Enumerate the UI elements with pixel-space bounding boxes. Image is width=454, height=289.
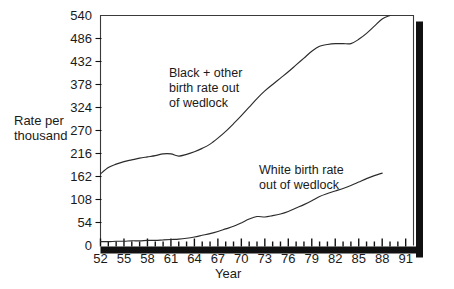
y-axis-tick-label: 486 [46,31,92,46]
y-axis-tick-label: 432 [46,54,92,69]
x-axis-tick-label: 61 [158,251,184,266]
chart-container: Rate perthousand 05410816221627032437843… [0,0,454,289]
x-axis-tick-label: 64 [181,251,207,266]
y-axis-tick-label: 378 [46,77,92,92]
x-axis-tick-label: 88 [369,251,395,266]
white-annotation: White birth rateout of wedlock [259,163,344,193]
x-axis-tick-label: 55 [111,251,137,266]
x-axis-tick-label: 85 [346,251,372,266]
x-axis-tick-label: 58 [134,251,160,266]
annotation-line: of wedlock [169,96,242,111]
annotation-line: birth rate out [169,81,242,96]
y-axis-tick-label: 54 [46,215,92,230]
annotation-line: out of wedlock [259,178,344,193]
y-axis-tick-label: 108 [46,192,92,207]
y-axis-tick-label: 162 [46,169,92,184]
x-axis-tick-label: 67 [205,251,231,266]
annotation-line: White birth rate [259,163,344,178]
x-axis-tick-label: 73 [252,251,278,266]
x-axis-title: Year [215,266,241,281]
x-axis-tick-label: 52 [88,251,114,266]
plot-background [101,16,414,246]
y-axis-tick-label: 540 [46,8,92,23]
plot-shadow-right [416,22,423,258]
x-axis-tick-label: 82 [322,251,348,266]
y-axis-tick-label: 216 [46,146,92,161]
x-axis-tick-label: 91 [393,251,419,266]
x-axis-tick-label: 79 [299,251,325,266]
x-axis-tick-label: 70 [228,251,254,266]
x-axis-tick-label: 76 [275,251,301,266]
y-axis-tick-label: 270 [46,123,92,138]
black-other-annotation: Black + otherbirth rate outof wedlock [169,66,242,110]
annotation-line: Black + other [169,66,242,81]
y-axis-tick-label: 0 [46,238,92,253]
y-axis-tick-label: 324 [46,100,92,115]
